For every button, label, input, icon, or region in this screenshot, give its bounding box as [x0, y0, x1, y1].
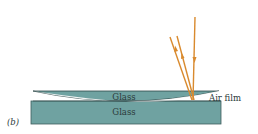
air-film-label: Air film — [208, 93, 241, 103]
reflected-ray-1 — [170, 37, 192, 100]
reflected-ray-2 — [177, 36, 194, 100]
panel-label: (b) — [7, 117, 19, 127]
thin-film-diagram: Glass Glass Air film (b) — [0, 0, 258, 134]
bottom-glass-label: Glass — [112, 107, 135, 117]
top-glass-label: Glass — [112, 92, 135, 102]
